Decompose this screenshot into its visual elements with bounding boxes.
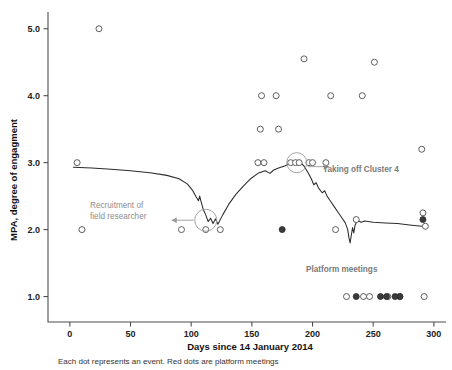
x-tick-label: 200 [305,329,320,339]
event-dot [255,160,261,166]
event-dot [217,227,223,233]
event-dot [79,227,85,233]
event-dot [257,126,263,132]
platform-meeting-dot [384,294,390,300]
event-dots-open [74,26,428,300]
annotation-recruitment: Recruitment of field researcher [90,201,217,231]
event-dot [273,93,279,99]
recruitment-label-line1: Recruitment of [90,201,144,210]
y-tick-label: 5.0 [27,24,40,34]
event-dot [74,160,80,166]
x-tick-label: 150 [244,329,259,339]
platform-meeting-dot [377,294,383,300]
event-dot [422,223,428,229]
platform-meeting-dot [420,217,426,223]
event-dot [276,126,282,132]
x-axis-ticks: 050100150200250300 [67,322,441,339]
chart-figure: 1.02.03.04.05.0 050100150200250300 MPA, … [0,0,452,370]
event-dot [419,146,425,152]
platform-meeting-dot [397,294,403,300]
x-tick-label: 50 [126,329,136,339]
x-tick-label: 0 [67,329,72,339]
y-tick-label: 1.0 [27,292,40,302]
figure-caption: Each dot represents an event. Red dots a… [58,357,279,366]
event-dot [261,160,267,166]
event-dot [328,93,334,99]
cluster4-label: Taking off Cluster 4 [323,165,399,174]
x-axis-title: Days since 14 January 2014 [187,341,313,352]
event-dot [371,59,377,65]
platform-meetings-group-label: Platform meetings [306,265,378,274]
y-tick-label: 4.0 [27,91,40,101]
y-tick-label: 2.0 [27,225,40,235]
event-dot [353,217,359,223]
platform-meeting-dot [279,227,285,233]
event-dot [96,26,102,32]
event-dot [359,93,365,99]
recruitment-arrow-head [172,217,177,223]
event-dot [178,227,184,233]
y-tick-label: 3.0 [27,158,40,168]
event-dot [203,227,209,233]
event-dot [421,294,427,300]
recruitment-label-line2: field researcher [90,212,147,221]
event-dot [301,56,307,62]
scatter-plot-canvas: 1.02.03.04.05.0 050100150200250300 MPA, … [0,0,452,370]
event-dot [420,210,426,216]
y-axis-title: MPA, degree of engagment [8,118,19,241]
x-tick-label: 250 [366,329,381,339]
y-axis-ticks: 1.02.03.04.05.0 [27,24,48,302]
x-tick-label: 300 [426,329,441,339]
event-dot [333,227,339,233]
event-dot [296,160,302,166]
platform-meeting-dot [353,294,359,300]
event-dot [310,160,316,166]
annotation-cluster4: Taking off Cluster 4 [287,153,400,174]
event-dot [367,294,373,300]
x-tick-label: 100 [184,329,199,339]
event-dot [259,93,265,99]
event-dot [360,294,366,300]
event-dot [344,294,350,300]
